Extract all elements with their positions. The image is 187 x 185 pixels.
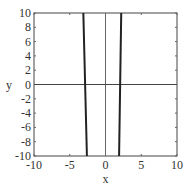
x-tick-label: 10 (171, 158, 183, 172)
y-tick-label: 0 (25, 78, 31, 92)
y-tick-label: -2 (21, 92, 31, 106)
y-tick-label: 8 (25, 20, 31, 34)
series-line (119, 13, 121, 156)
y-tick-label: 10 (19, 6, 31, 20)
x-axis-label: x (103, 172, 109, 185)
x-axis-ticks: -10-50510 (26, 13, 183, 172)
x-tick-label: -5 (65, 158, 75, 172)
y-tick-label: -4 (21, 106, 31, 120)
x-tick-label: -10 (26, 158, 42, 172)
x-tick-label: 5 (138, 158, 144, 172)
y-tick-label: 4 (25, 49, 31, 63)
y-tick-label: 6 (25, 35, 31, 49)
chart: 1086420-2-4-6-8-10 -10-50510 x y (0, 0, 187, 185)
y-axis-label: y (6, 78, 12, 92)
x-tick-label: 0 (103, 158, 109, 172)
y-tick-label: -6 (21, 120, 31, 134)
y-tick-label: -8 (21, 135, 31, 149)
y-tick-label: 2 (25, 63, 31, 77)
